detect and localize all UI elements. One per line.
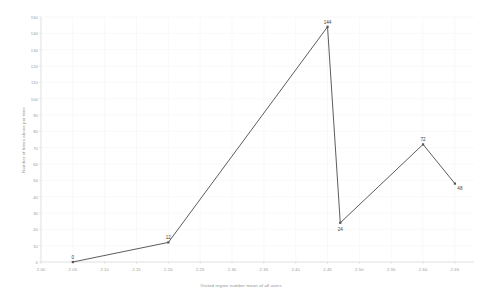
x-tick-label: 2.50 (355, 267, 364, 272)
y-tick-label: 70 (28, 145, 38, 150)
axis-lines (39, 17, 474, 264)
y-tick-label: 40 (28, 194, 38, 199)
x-tick-label: 2.20 (164, 267, 173, 272)
y-tick-label: 20 (28, 227, 38, 232)
x-axis-title: Visited region number mean of all users (200, 283, 281, 288)
y-tick-label: 110 (28, 80, 38, 85)
data-point-label: 72 (420, 137, 425, 142)
y-tick-label: 100 (28, 96, 38, 101)
x-tick-label: 2.65 (451, 267, 460, 272)
x-tick-label: 2.35 (260, 267, 269, 272)
y-tick-label: 30 (28, 211, 38, 216)
y-tick-label: 150 (28, 15, 38, 20)
data-point-label: 0 (72, 255, 75, 260)
x-tick-label: 2.25 (196, 267, 205, 272)
x-tick-label: 2.00 (37, 267, 46, 272)
data-point-label: 12 (166, 235, 171, 240)
x-tick-label: 2.30 (228, 267, 237, 272)
y-tick-label: 10 (28, 243, 38, 248)
y-tick-label: 0 (28, 260, 38, 265)
y-axis-title: Number of times above per time (21, 107, 26, 173)
x-tick-label: 2.15 (132, 267, 141, 272)
x-tick-label: 2.60 (419, 267, 428, 272)
data-point-label: 144 (324, 20, 332, 25)
x-tick-label: 2.55 (387, 267, 396, 272)
y-tick-label: 120 (28, 64, 38, 69)
line-chart: 0102030405060708090100110120130140150 2.… (0, 0, 482, 300)
x-tick-label: 2.45 (323, 267, 332, 272)
y-tick-label: 130 (28, 47, 38, 52)
grid-lines (41, 17, 474, 262)
y-tick-label: 80 (28, 129, 38, 134)
data-point-label: 48 (457, 186, 462, 191)
y-tick-label: 140 (28, 31, 38, 36)
x-tick-label: 2.05 (69, 267, 78, 272)
y-tick-label: 90 (28, 113, 38, 118)
x-tick-label: 2.40 (291, 267, 300, 272)
data-point-label: 24 (338, 227, 343, 232)
y-tick-label: 60 (28, 162, 38, 167)
x-tick-label: 2.10 (100, 267, 109, 272)
y-tick-label: 50 (28, 178, 38, 183)
